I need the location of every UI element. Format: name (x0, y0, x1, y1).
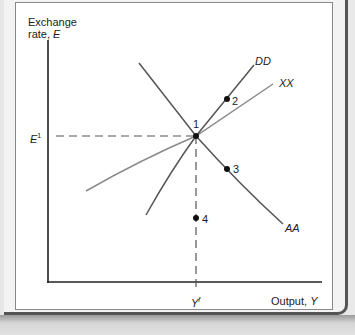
e1-label-sup: 1 (37, 132, 41, 139)
y-axis-label: Exchange rate, E (28, 16, 77, 40)
diagram-canvas (0, 0, 355, 335)
x-axis-var: Y (310, 295, 317, 307)
y-axis-label-line2: rate, (28, 28, 50, 40)
point-2-dot (224, 96, 230, 102)
point-1-dot (193, 133, 199, 139)
y-axis-label-line1: Exchange (28, 16, 77, 28)
yf-label: Yf (191, 294, 200, 309)
aa-curve (139, 63, 283, 224)
xx-label: XX (279, 77, 294, 89)
x-axis-label-text: Output, (271, 295, 307, 307)
point-3-dot (224, 166, 230, 172)
e1-label: E1 (30, 130, 41, 145)
dd-label: DD (255, 55, 271, 67)
yf-label-sup: f (198, 296, 200, 303)
xx-curve (86, 84, 273, 191)
y-axis-var: E (53, 28, 60, 40)
point-4-label: 4 (202, 213, 208, 225)
point-2-label: 2 (232, 95, 238, 107)
point-4-dot (193, 215, 199, 221)
aa-label: AA (285, 222, 300, 234)
point-1-label: 1 (193, 118, 199, 130)
x-axis-label: Output, Y (271, 295, 317, 307)
point-3-label: 3 (233, 163, 239, 175)
